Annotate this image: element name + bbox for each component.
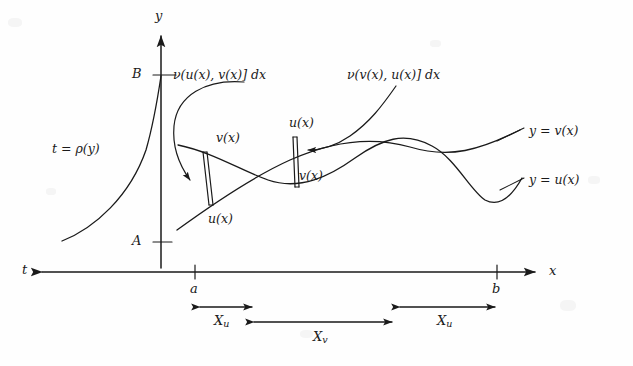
curve-u-label: y = u(x) [529, 172, 579, 187]
tick-label-B: B [132, 66, 142, 81]
brace-middle-Xv-subscript: v [322, 334, 327, 345]
brace-right-Xu-letter: X [437, 313, 446, 328]
brace-right-Xu-subscript: u [446, 318, 452, 329]
math-diagram-figure: y x t B A a b t = ρ(y) y = v(x) y = u(x)… [0, 0, 633, 366]
callout-right-label: ν(v(x), u(x)] dx [347, 67, 440, 82]
strip-right-top-label: u(x) [289, 115, 314, 130]
strip-right-edge-1 [293, 137, 295, 187]
brace-left-Xu-label: Xu [214, 313, 229, 329]
curve-v-label: y = v(x) [529, 123, 578, 138]
leader-u-label [500, 178, 524, 190]
callout-left-label: ν(u(x), v(x)] dx [173, 67, 266, 82]
brace-left-Xu-subscript: u [223, 318, 229, 329]
rho-curve-label: t = ρ(y) [52, 141, 100, 156]
brace-left-Xu-letter: X [214, 313, 223, 328]
strip-right-bottom-label: v(x) [299, 168, 323, 183]
brace-middle-Xv-label: Xv [313, 329, 328, 345]
tick-label-a: a [190, 281, 198, 296]
curve-u [178, 138, 522, 202]
tick-label-b: b [492, 281, 500, 296]
brace-right-Xu-label: Xu [437, 313, 452, 329]
strip-left-top-label: v(x) [216, 130, 240, 145]
strip-left-bottom-label: u(x) [208, 211, 233, 226]
t-axis-label: t [22, 262, 27, 277]
leader-v-label [497, 128, 524, 141]
x-axis-label: x [549, 263, 556, 278]
tick-label-A: A [132, 233, 141, 248]
y-axis-label: y [155, 8, 162, 23]
brace-middle-Xv-letter: X [313, 329, 322, 344]
callout-right-arrow [308, 86, 396, 150]
rho-curve [62, 76, 161, 241]
